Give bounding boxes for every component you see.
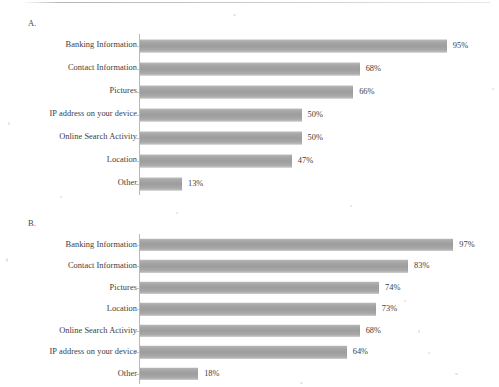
axis-tick: [135, 309, 139, 310]
bar-track: 13%: [140, 177, 203, 190]
bar: [140, 39, 447, 52]
bar-row: Other13%: [0, 172, 499, 195]
category-label: Banking Information: [0, 241, 137, 249]
category-label: IP address on your device: [0, 348, 137, 356]
bar-value-label: 95%: [453, 41, 468, 49]
axis-tick: [135, 374, 139, 375]
bar-value-label: 50%: [308, 133, 323, 141]
bar-row: Other18%: [0, 363, 499, 385]
axis-tick: [135, 184, 139, 185]
bar-row: Online Search Activity50%: [0, 126, 499, 149]
chart-panel-a: A. Banking Information95%Contact Informa…: [0, 0, 499, 200]
category-label: Pictures: [0, 87, 137, 95]
bar: [140, 154, 292, 167]
bar-value-label: 97%: [459, 241, 474, 249]
bar-rows-b: Banking Information97%Contact Informatio…: [0, 234, 499, 385]
category-label: Pictures: [0, 284, 137, 292]
bar-row: Banking Information95%: [0, 34, 499, 57]
bar-track: 64%: [140, 346, 368, 359]
bar-value-label: 66%: [359, 87, 374, 95]
axis-tick: [135, 69, 139, 70]
bar-track: 66%: [140, 85, 375, 98]
plot-area-b: Banking Information97%Contact Informatio…: [0, 234, 499, 385]
axis-tick: [135, 331, 139, 332]
bar-row: Contact Information83%: [0, 256, 499, 278]
bar-value-label: 83%: [414, 262, 429, 270]
bar: [140, 108, 302, 121]
bar-row: IP address on your device64%: [0, 342, 499, 364]
category-label: Contact Information: [0, 64, 137, 72]
axis-tick: [135, 245, 139, 246]
category-label: Online Search Activity: [0, 133, 137, 141]
bar-value-label: 68%: [366, 327, 381, 335]
bar: [140, 260, 408, 273]
bar-row: Pictures66%: [0, 80, 499, 103]
bar-track: 68%: [140, 62, 381, 75]
axis-tick: [135, 352, 139, 353]
category-label: Other: [0, 179, 137, 187]
bar-track: 73%: [140, 303, 397, 316]
bar-value-label: 73%: [382, 305, 397, 313]
bar-track: 97%: [140, 239, 475, 252]
bar: [140, 62, 360, 75]
category-label: Banking Information: [0, 41, 137, 49]
chart-panel-b: B. Banking Information97%Contact Informa…: [0, 200, 499, 387]
bar-value-label: 68%: [366, 64, 381, 72]
bar: [140, 325, 360, 338]
bar-row: Location47%: [0, 149, 499, 172]
axis-tick: [135, 266, 139, 267]
bar-row: Online Search Activity68%: [0, 320, 499, 342]
bar-value-label: 13%: [188, 179, 203, 187]
bar: [140, 368, 198, 381]
bar-value-label: 64%: [353, 348, 368, 356]
category-label: Location: [0, 305, 137, 313]
bar-track: 83%: [140, 260, 429, 273]
bar-track: 50%: [140, 108, 323, 121]
bar-track: 50%: [140, 131, 323, 144]
bar-row: Location73%: [0, 299, 499, 321]
axis-tick: [135, 46, 139, 47]
bar: [140, 177, 182, 190]
panel-b-letter: B.: [28, 218, 36, 228]
bar-track: 68%: [140, 325, 381, 338]
bar-row: IP address on your device50%: [0, 103, 499, 126]
category-label: Other: [0, 370, 137, 378]
bar-row: Contact Information68%: [0, 57, 499, 80]
axis-tick: [135, 288, 139, 289]
category-label: Online Search Activity: [0, 327, 137, 335]
category-label: IP address on your device: [0, 110, 137, 118]
category-label: Contact Information: [0, 262, 137, 270]
bar-value-label: 47%: [298, 156, 313, 164]
bar: [140, 239, 453, 252]
bar-value-label: 50%: [308, 110, 323, 118]
axis-tick: [135, 161, 139, 162]
category-label: Location: [0, 156, 137, 164]
bar-row: Banking Information97%: [0, 234, 499, 256]
bar-rows-a: Banking Information95%Contact Informatio…: [0, 34, 499, 195]
bar: [140, 346, 347, 359]
bar: [140, 303, 376, 316]
axis-tick: [135, 138, 139, 139]
panel-a-letter: A.: [28, 18, 37, 28]
bar-row: Pictures74%: [0, 277, 499, 299]
bar-value-label: 18%: [204, 370, 219, 378]
bar: [140, 85, 353, 98]
bar-value-label: 74%: [385, 284, 400, 292]
bar: [140, 131, 302, 144]
plot-area-a: Banking Information95%Contact Informatio…: [0, 34, 499, 195]
bar-track: 18%: [140, 368, 219, 381]
axis-tick: [135, 92, 139, 93]
bar-track: 74%: [140, 282, 400, 295]
bar: [140, 282, 379, 295]
bar-track: 95%: [140, 39, 468, 52]
axis-tick: [135, 115, 139, 116]
bar-track: 47%: [140, 154, 313, 167]
